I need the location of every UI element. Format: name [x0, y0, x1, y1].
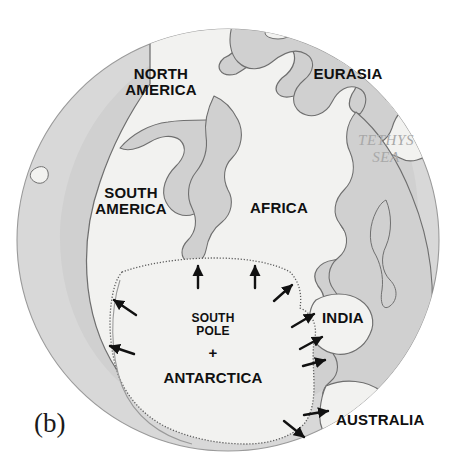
panel-label: (b)	[34, 408, 65, 439]
label-south-america: SOUTH AMERICA	[66, 185, 196, 217]
label-antarctica: ANTARCTICA	[148, 370, 278, 386]
label-africa: AFRICA	[224, 200, 334, 216]
label-eurasia: EURASIA	[288, 66, 408, 82]
label-india: INDIA	[322, 310, 402, 326]
label-tethys-sea: TETHYS SEA	[334, 132, 438, 165]
label-australia: AUSTRALIA	[336, 412, 460, 428]
label-north-america: NORTH AMERICA	[96, 66, 226, 98]
label-south-pole: SOUTH POLE	[158, 312, 268, 337]
south-pole-marker-icon: +	[158, 345, 268, 361]
figure-panel-b: NORTH AMERICA EURASIA TETHYS SEA SOUTH A…	[0, 0, 461, 461]
